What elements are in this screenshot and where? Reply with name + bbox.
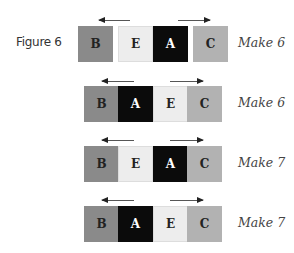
block-label: E xyxy=(131,37,140,51)
block-label: B xyxy=(96,217,106,231)
block-label: B xyxy=(96,157,106,171)
block-0: B xyxy=(84,86,119,122)
block-label: C xyxy=(206,37,216,51)
block-label: C xyxy=(200,157,210,171)
block-1: A xyxy=(118,206,153,242)
block-label: A xyxy=(131,97,140,111)
result-label: Make 7 xyxy=(238,155,285,170)
arrow-right-icon xyxy=(170,200,203,201)
arrow-right-icon xyxy=(178,20,210,21)
arrow-left-icon xyxy=(99,20,130,21)
block-2: A xyxy=(153,26,188,62)
block-label: A xyxy=(166,157,175,171)
diagram-row-4: B A E C Make 7 xyxy=(0,194,294,253)
block-label: E xyxy=(166,217,175,231)
block-label: A xyxy=(166,37,175,51)
block-3: C xyxy=(187,206,222,242)
block-3: C xyxy=(193,26,228,62)
block-1: E xyxy=(118,26,153,62)
block-2: E xyxy=(153,86,188,122)
block-2: E xyxy=(153,206,188,242)
diagram-row-3: B E A C Make 7 xyxy=(0,134,294,194)
result-label: Make 6 xyxy=(238,35,285,50)
arrow-left-icon xyxy=(102,200,134,201)
result-label: Make 7 xyxy=(238,215,285,230)
block-label: E xyxy=(131,157,140,171)
block-0: B xyxy=(84,206,119,242)
arrow-right-icon xyxy=(170,81,203,82)
result-label: Make 6 xyxy=(238,95,285,110)
block-label: C xyxy=(200,97,210,111)
block-label: B xyxy=(96,97,106,111)
block-3: C xyxy=(187,86,222,122)
block-label: A xyxy=(131,217,140,231)
block-1: A xyxy=(118,86,153,122)
arrow-right-icon xyxy=(170,140,203,141)
block-2: A xyxy=(153,146,188,182)
block-label: E xyxy=(166,97,175,111)
arrow-left-icon xyxy=(102,81,134,82)
arrow-left-icon xyxy=(102,140,134,141)
block-1: E xyxy=(118,146,153,182)
block-0: B xyxy=(78,26,113,62)
diagram-row-1: B E A C Make 6 xyxy=(0,14,294,74)
block-label: B xyxy=(90,37,100,51)
block-0: B xyxy=(84,146,119,182)
block-3: C xyxy=(187,146,222,182)
block-label: C xyxy=(200,217,210,231)
diagram-row-2: B A E C Make 6 xyxy=(0,74,294,134)
